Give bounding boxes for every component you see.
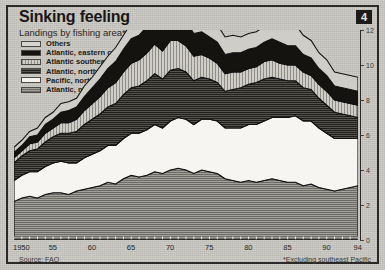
y-tick-mark — [360, 240, 364, 241]
x-tick-label: 1950 — [13, 243, 30, 252]
plot-area — [14, 30, 358, 240]
chart-figure: Sinking feeling Landings by fishing area… — [0, 0, 385, 270]
x-tick-label: 90 — [322, 243, 330, 252]
stacked-area-svg — [14, 30, 358, 240]
y-tick-label: 2 — [366, 202, 370, 209]
x-tick-label: 80 — [244, 243, 252, 252]
y-axis-line — [360, 30, 361, 240]
x-tick-label: 75 — [205, 243, 213, 252]
chart-title: Sinking feeling — [19, 9, 130, 25]
x-tick-label: 60 — [88, 243, 96, 252]
x-axis-labels: 1950556065707580859094 — [0, 243, 385, 255]
x-tick-label: 65 — [127, 243, 135, 252]
y-tick-label: 12 — [366, 27, 374, 34]
chart-number-badge: 4 — [356, 10, 372, 24]
x-tick-label: 55 — [49, 243, 57, 252]
frame-top-rule — [6, 5, 379, 7]
x-tick-label: 70 — [166, 243, 174, 252]
y-tick-label: 6 — [366, 132, 370, 139]
y-tick-label: 10 — [366, 62, 374, 69]
footnote: *Excluding southeast Pacific — [283, 256, 371, 263]
y-tick-label: 4 — [366, 167, 370, 174]
x-tick-label: 85 — [283, 243, 291, 252]
y-axis-labels: 024681012 — [360, 30, 384, 240]
source-note: Source: FAO — [19, 256, 59, 263]
y-tick-label: 8 — [366, 97, 370, 104]
frame-left-rule — [6, 5, 8, 264]
x-tick-label: 94 — [354, 243, 362, 252]
